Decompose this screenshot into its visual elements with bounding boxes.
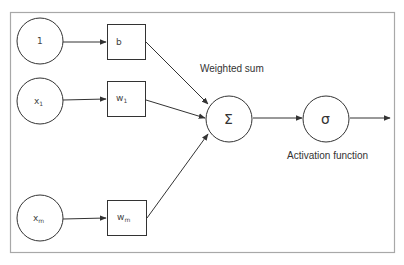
sum-caption: Weighted sum	[200, 63, 264, 74]
input-node-xm: xm	[17, 195, 63, 241]
input-node-x1: x1	[17, 78, 63, 124]
weight-box-wm: wm	[108, 201, 147, 236]
activation-symbol: σ	[321, 111, 330, 127]
weight-box-w1: w1	[108, 82, 146, 117]
weight-box-wm-subscript: m	[124, 216, 130, 223]
input-node-bias-label: 1	[37, 36, 43, 46]
weight-box-w1-subscript: 1	[123, 97, 127, 104]
sum-node: Σ	[206, 96, 252, 142]
weight-box-b-label: b	[116, 37, 122, 47]
weight-box-wm-label: w	[117, 212, 124, 222]
sum-symbol: Σ	[224, 111, 233, 127]
weight-box-b: b	[108, 25, 146, 60]
perceptron-diagram: 1 x1 xm b w1 wm Σ Weighted sum σ Activat…	[0, 0, 404, 265]
input-node-x1-subscript: 1	[39, 100, 43, 107]
input-node-xm-subscript: m	[38, 217, 44, 224]
activation-caption: Activation function	[287, 150, 368, 161]
input-node-bias: 1	[17, 18, 63, 64]
weight-box-w1-label: w	[116, 93, 123, 103]
activation-node: σ	[303, 96, 349, 142]
